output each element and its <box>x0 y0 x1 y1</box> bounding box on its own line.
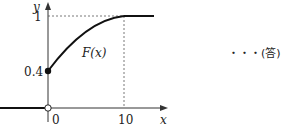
tick-x-10: 10 <box>118 114 133 126</box>
curve-label: F(x) <box>82 47 106 59</box>
x-axis-label: x <box>160 114 167 126</box>
open-circle-marker <box>45 105 51 111</box>
cdf-figure: y 1 0.4 0 10 x F(x) ・・・(答) <box>0 0 284 127</box>
tick-x-0: 0 <box>52 114 60 126</box>
curve-main <box>48 16 124 71</box>
x-axis-arrow-icon <box>160 105 168 111</box>
answer-mark: ・・・(答) <box>228 44 281 60</box>
tick-y-0.4: 0.4 <box>24 66 43 78</box>
cdf-plot <box>0 0 284 127</box>
y-axis-arrow-icon <box>45 2 51 10</box>
filled-circle-marker <box>45 68 51 74</box>
tick-y-1: 1 <box>34 11 42 23</box>
